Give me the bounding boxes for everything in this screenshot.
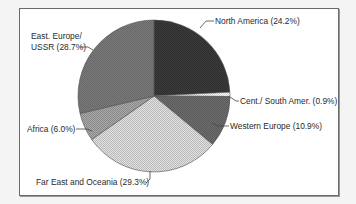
label-far-east: Far East and Oceania (29.3%)	[36, 177, 149, 187]
pie-chart: North America (24.2%) Cent./ South Amer.…	[0, 0, 356, 204]
pie-slices	[78, 20, 230, 172]
label-africa: Africa (6.0%)	[27, 124, 76, 134]
label-east-europe-line2: USSR (28.7%)	[31, 42, 86, 52]
label-western-europe: Western Europe (10.9%)	[230, 121, 322, 131]
label-north-america: North America (24.2%)	[215, 16, 300, 26]
label-cent-south-amer: Cent./ South Amer. (0.9%)	[240, 96, 337, 106]
slice-texture	[154, 20, 230, 96]
label-east-europe-line1: East. Europe/	[31, 31, 82, 41]
